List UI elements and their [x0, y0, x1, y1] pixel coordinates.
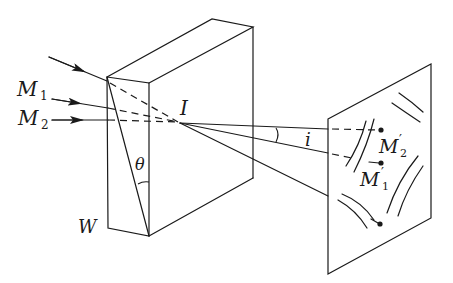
label-theta: θ [135, 155, 145, 174]
incoming-rays [49, 57, 108, 120]
label-m1-prime-mark: ′ [381, 165, 384, 180]
point-m2-prime [378, 127, 383, 132]
label-point-i: I [179, 96, 189, 120]
fringe-left-1 [346, 121, 366, 166]
fringe-upper-right-2 [399, 93, 423, 112]
incoming-ray-m1-arrow [52, 99, 80, 104]
screen-outline [328, 64, 431, 274]
label-m2-prime-sub: 2 [400, 147, 407, 160]
pointer-lower [371, 219, 378, 223]
label-wedge-w: W [78, 216, 98, 237]
point-lower [377, 221, 382, 226]
virtual-ray-paths [108, 83, 178, 122]
screen [328, 64, 431, 274]
label-angle-i: i [305, 129, 311, 150]
fringe-bottom-1 [338, 200, 367, 228]
label-m1-sub: 1 [40, 89, 48, 103]
theta-angle-arc [138, 182, 149, 184]
label-m1-prime: M [359, 168, 380, 190]
pointer-m1-prime [369, 162, 379, 163]
incoming-ray-top-arrow [49, 57, 84, 72]
label-m1: M [16, 77, 38, 101]
wedge-interference-diagram: M 1 M 2 I i θ W M ′ 2 M ′ 1 [0, 0, 453, 283]
outgoing-rays [180, 123, 378, 196]
wedge-block [107, 19, 253, 236]
dashed-path-top [110, 83, 178, 122]
angle-i-arc [276, 128, 278, 142]
wedge-top-face [107, 19, 253, 83]
dashed-to-m1-prime [332, 154, 352, 158]
label-m1-prime-sub: 1 [382, 180, 389, 193]
wedge-bottom-edge [149, 178, 253, 236]
label-m2-sub: 2 [41, 118, 49, 132]
label-m2-prime: M [378, 135, 399, 157]
label-m2-prime-mark: ′ [399, 132, 402, 147]
label-m2: M [17, 106, 39, 130]
fringe-right-2 [398, 166, 423, 216]
